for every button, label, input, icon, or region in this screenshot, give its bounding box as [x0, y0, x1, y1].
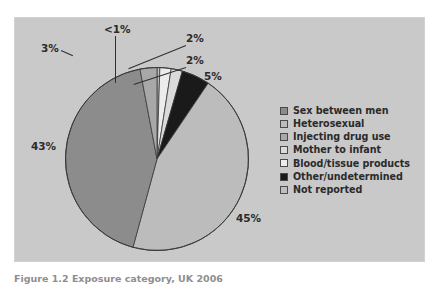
- pie-label-45-percent: 45%: [236, 212, 261, 224]
- legend-item-label: Mother to infant: [293, 145, 381, 155]
- legend-color-swatch: [280, 133, 288, 141]
- legend-item: Other/undetermined: [280, 170, 420, 183]
- figure-caption: Figure 1.2 Exposure category, UK 2006: [14, 272, 434, 285]
- legend-color-swatch: [280, 120, 288, 128]
- pie-svg: [64, 66, 250, 252]
- figure-container: 3% <1% 2% 2% 5% 43% 45% Sex between menH…: [0, 0, 441, 285]
- legend-item: Sex between men: [280, 104, 420, 117]
- pie-label-2-percent-lower: 2%: [186, 54, 204, 66]
- legend-color-swatch: [280, 159, 288, 167]
- pie-label-2-percent-upper: 2%: [186, 32, 204, 44]
- pie-label-43-percent: 43%: [31, 140, 56, 152]
- legend-item: Injecting drug use: [280, 130, 420, 143]
- legend-item-label: Sex between men: [293, 106, 389, 116]
- chart-legend: Sex between menHeterosexualInjecting dru…: [280, 104, 420, 196]
- legend-item-label: Not reported: [293, 185, 362, 195]
- legend-color-swatch: [280, 173, 288, 181]
- pie-label-3-percent: 3%: [41, 42, 59, 54]
- legend-item: Blood/tissue products: [280, 157, 420, 170]
- chart-panel: 3% <1% 2% 2% 5% 43% 45% Sex between menH…: [14, 17, 425, 262]
- pie-label-5-percent: 5%: [204, 70, 222, 82]
- pie-label-less-than-1-percent: <1%: [104, 23, 130, 35]
- leader-line-3pct: [61, 50, 73, 56]
- legend-item-label: Injecting drug use: [293, 132, 391, 142]
- legend-color-swatch: [280, 146, 288, 154]
- legend-item: Not reported: [280, 183, 420, 196]
- legend-item-label: Heterosexual: [293, 119, 364, 129]
- legend-item: Mother to infant: [280, 144, 420, 157]
- pie-chart: [64, 66, 250, 252]
- legend-item-label: Blood/tissue products: [293, 159, 410, 169]
- leader-line-lt1pct: [115, 36, 116, 83]
- legend-item: Heterosexual: [280, 117, 420, 130]
- legend-color-swatch: [280, 107, 288, 115]
- pie-slices: [65, 67, 248, 250]
- legend-item-label: Other/undetermined: [293, 172, 403, 182]
- legend-color-swatch: [280, 186, 288, 194]
